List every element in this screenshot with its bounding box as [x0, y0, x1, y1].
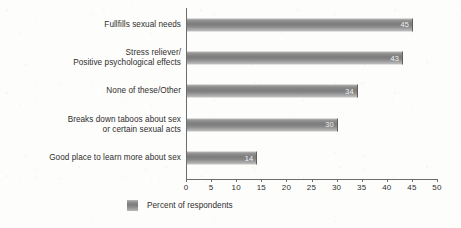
x-axis-tick-mark	[261, 179, 262, 182]
x-axis-tick-mark	[186, 179, 187, 182]
bar-good-place-to-learn[interactable]: 14	[187, 152, 257, 165]
x-axis-tick-label: 50	[432, 183, 441, 192]
x-axis-tick-label: 0	[184, 183, 189, 192]
category-label: None of these/Other	[1, 86, 181, 96]
category-label: Breaks down taboos about sex or certain …	[1, 115, 181, 135]
bar-container: 30	[187, 118, 338, 131]
x-axis-tick-label: 30	[332, 183, 341, 192]
bar-value-label: 14	[245, 154, 253, 163]
x-axis-tick-mark	[362, 179, 363, 182]
bar-row: Good place to learn more about sex 14	[0, 142, 461, 175]
x-axis-tick-mark	[412, 179, 413, 182]
bar-value-label: 45	[400, 20, 408, 29]
bar-fullfills-sexual-needs[interactable]: 45	[187, 18, 413, 31]
bar-container: 45	[187, 18, 413, 31]
x-axis-tick-label: 20	[282, 183, 291, 192]
x-axis-tick-label: 5	[209, 183, 214, 192]
bar-value-label: 43	[390, 54, 398, 63]
category-label: Good place to learn more about sex	[1, 153, 181, 163]
x-axis-tick-mark	[236, 179, 237, 182]
category-label: Fullfills sexual needs	[1, 20, 181, 30]
x-axis-tick-label: 25	[307, 183, 316, 192]
legend-label: Percent of respondents	[147, 201, 233, 210]
bar-row: Breaks down taboos about sex or certain …	[0, 108, 461, 141]
bar-row: Stress reliever/ Positive psychological …	[0, 41, 461, 74]
bar-none-of-these-other[interactable]: 34	[187, 85, 358, 98]
bar-stress-reliever[interactable]: 43	[187, 52, 403, 65]
x-axis-tick-mark	[387, 179, 388, 182]
x-axis-tick-label: 40	[382, 183, 391, 192]
bar-container: 43	[187, 52, 403, 65]
bar-container: 34	[187, 85, 358, 98]
bar-container: 14	[187, 152, 257, 165]
x-axis-tick-mark	[337, 179, 338, 182]
x-axis-tick-mark	[437, 179, 438, 182]
category-label: Stress reliever/ Positive psychological …	[1, 48, 181, 68]
horizontal-bar-chart: Fullfills sexual needs 45 Stress relieve…	[0, 0, 461, 228]
x-axis-tick-label: 45	[407, 183, 416, 192]
x-axis-tick-mark	[211, 179, 212, 182]
legend-swatch-icon	[127, 200, 138, 211]
x-axis-tick-label: 10	[232, 183, 241, 192]
x-axis-tick-label: 35	[357, 183, 366, 192]
x-axis-tick-label: 15	[257, 183, 266, 192]
bar-row: None of these/Other 34	[0, 75, 461, 108]
chart-legend: Percent of respondents	[127, 200, 233, 211]
x-axis-tick-mark	[286, 179, 287, 182]
bar-value-label: 30	[325, 120, 333, 129]
bar-breaks-down-taboos[interactable]: 30	[187, 118, 338, 131]
bar-row: Fullfills sexual needs 45	[0, 8, 461, 41]
bar-value-label: 34	[345, 87, 353, 96]
x-axis-tick-mark	[312, 179, 313, 182]
